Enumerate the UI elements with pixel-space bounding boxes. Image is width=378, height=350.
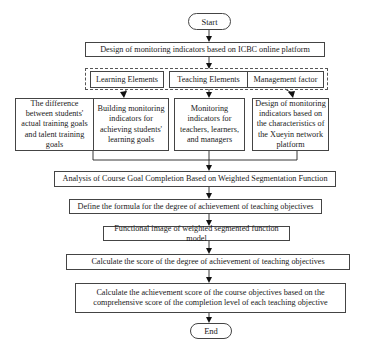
indicator-monitoring-label: Monitoring indicators for teachers, lear… (177, 104, 242, 145)
define-formula-step-box: Define the formula for the degree of ach… (69, 199, 322, 214)
indicator-building-box: Building monitoring indicators for achie… (93, 98, 169, 151)
design-indicators-label: Design of monitoring indicators based on… (100, 45, 310, 55)
end-terminal: End (190, 323, 232, 339)
teaching-elements-box: Teaching Elements (169, 71, 248, 88)
management-factor-label: Management factor (254, 75, 318, 85)
indicator-difference-box: The difference between students' actual … (15, 98, 94, 151)
indicator-xueyin-label: Design of monitoring indicators based on… (255, 99, 326, 150)
end-label: End (204, 326, 218, 336)
calculate-score-step-box: Calculate the score of the degree of ach… (66, 254, 350, 270)
define-formula-step-label: Define the formula for the degree of ach… (78, 202, 314, 212)
analysis-step-box: Analysis of Course Goal Completion Based… (54, 171, 336, 187)
teaching-elements-label: Teaching Elements (177, 75, 239, 85)
learning-elements-box: Learning Elements (90, 71, 164, 88)
indicator-monitoring-box: Monitoring indicators for teachers, lear… (174, 98, 245, 151)
learning-elements-label: Learning Elements (96, 75, 158, 85)
start-terminal: Start (188, 13, 231, 30)
indicator-xueyin-box: Design of monitoring indicators based on… (252, 98, 329, 151)
design-indicators-box: Design of monitoring indicators based on… (85, 42, 325, 57)
indicator-building-label: Building monitoring indicators for achie… (96, 104, 166, 145)
calculate-achievement-step-label: Calculate the achievement score of the c… (84, 288, 337, 308)
functional-image-step-label: Functional image of weighted segmented f… (106, 224, 287, 244)
management-factor-box: Management factor (247, 71, 324, 88)
start-label: Start (201, 17, 217, 27)
calculate-score-step-label: Calculate the score of the degree of ach… (91, 257, 324, 267)
functional-image-step-box: Functional image of weighted segmented f… (103, 226, 290, 241)
analysis-step-label: Analysis of Course Goal Completion Based… (62, 174, 327, 184)
calculate-achievement-step-box: Calculate the achievement score of the c… (75, 283, 346, 313)
indicator-difference-label: The difference between students' actual … (18, 99, 91, 150)
